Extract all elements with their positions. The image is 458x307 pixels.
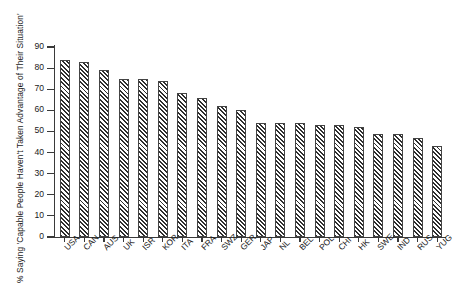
x-axis-tick-label: SWE bbox=[375, 232, 396, 253]
x-axis-tick-label: FRA bbox=[199, 233, 218, 252]
x-axis-tick-label: CAN bbox=[81, 232, 101, 252]
x-axis-labels-layer: USACANAUSUKISRKORITAFRASWZGERJAPNLBELPOL… bbox=[0, 0, 458, 307]
x-axis-tick-label: RUS bbox=[415, 232, 435, 252]
x-axis-tick-label: KOR bbox=[160, 232, 180, 252]
x-axis-tick-label: JAP bbox=[258, 234, 276, 252]
x-axis-tick-label: AUS bbox=[101, 233, 120, 252]
x-axis-tick-label: YUG bbox=[434, 232, 454, 252]
x-axis-tick-label: SWZ bbox=[219, 232, 239, 252]
bar-chart: % Saying 'Capable People Haven't Taken A… bbox=[0, 0, 458, 307]
x-axis-tick-label: POL bbox=[317, 233, 336, 252]
x-axis-tick-label: USA bbox=[62, 233, 81, 252]
x-axis-tick-label: BEL bbox=[297, 234, 315, 252]
x-axis-tick-label: GER bbox=[238, 232, 258, 252]
